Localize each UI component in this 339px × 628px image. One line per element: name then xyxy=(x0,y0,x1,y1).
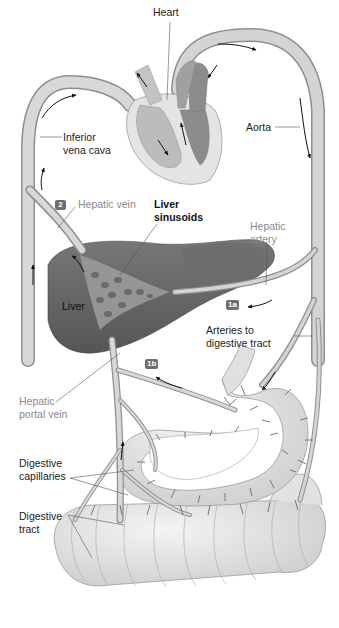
label-hepatic-artery-line2: artery xyxy=(250,233,286,246)
label-tract-line1: Digestive xyxy=(19,510,62,523)
label-ivc-line2: vena cava xyxy=(63,144,111,157)
label-portal-line2: portal vein xyxy=(19,408,67,421)
step-badge-1a: 1a xyxy=(226,300,239,310)
label-sinusoids-line2: sinusoids xyxy=(154,211,203,224)
label-arteries-line1: Arteries to xyxy=(206,324,271,337)
label-heart: Heart xyxy=(153,6,179,19)
label-aorta: Aorta xyxy=(246,121,271,134)
stomach-and-intestine xyxy=(117,345,308,506)
arrow-ivc-up xyxy=(41,168,44,190)
label-digestive-capillaries: Digestive capillaries xyxy=(19,457,66,482)
label-portal-line1: Hepatic xyxy=(19,395,67,408)
arrow-hepatic-artery xyxy=(248,300,272,307)
label-ivc-line1: Inferior xyxy=(63,131,111,144)
label-tract-line2: tract xyxy=(19,523,62,536)
label-arteries-line2: digestive tract xyxy=(206,337,271,350)
arrow-aorta-top xyxy=(218,44,256,50)
label-arteries-to-digestive-tract: Arteries to digestive tract xyxy=(206,324,271,349)
label-inferior-vena-cava: Inferior vena cava xyxy=(63,131,111,156)
label-hepatic-artery-line1: Hepatic xyxy=(250,220,286,233)
label-capillaries-line1: Digestive xyxy=(19,457,66,470)
label-hepatic-portal-vein: Hepatic portal vein xyxy=(19,395,67,420)
label-liver-sinusoids: Liver sinusoids xyxy=(154,198,203,223)
label-hepatic-vein: Hepatic vein xyxy=(78,198,136,211)
label-hepatic-artery: Hepatic artery xyxy=(250,220,286,245)
step-badge-2: 2 xyxy=(55,200,66,210)
step-badge-1b: 1b xyxy=(145,359,158,369)
arrow-heart-pv xyxy=(208,65,217,78)
label-sinusoids-line1: Liver xyxy=(154,198,203,211)
label-capillaries-line2: capillaries xyxy=(19,470,66,483)
arrow-aorta-down xyxy=(300,98,310,158)
label-liver: Liver xyxy=(62,300,85,313)
label-digestive-tract: Digestive tract xyxy=(19,510,62,535)
